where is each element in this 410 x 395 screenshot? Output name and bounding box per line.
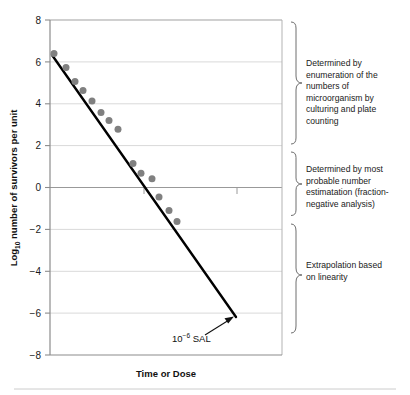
annotation-enumeration-line: enumeration of the [306,70,378,80]
y-axis-title-prefix: Log [8,249,19,267]
data-point [89,98,96,105]
sal-label: 10−6 SAL [172,332,211,344]
ytick-label-minus2: −2 [30,224,42,235]
sal-label-suffix: SAL [190,333,211,344]
ytick-label-8: 8 [35,15,41,26]
ytick-label-6: 6 [35,57,41,68]
annotation-enumeration-line: counting [306,116,339,126]
annotation-mpn-line: Determined by most [306,164,384,174]
ytick-label-4: 4 [35,98,41,109]
annotation-enumeration-line: microorganism by [306,93,375,103]
annotation-enumeration-line: culturing and plate [306,104,376,114]
data-point [149,175,156,182]
annotation-extrapolation-line: Extrapolation based [306,260,382,270]
ytick-label-2: 2 [35,140,41,151]
data-point [80,87,87,94]
survival-curve-figure: 8 6 4 2 0 −2 −4 −6 −8 Log10 number of su… [0,0,410,395]
x-axis-title: Time or Dose [136,368,196,379]
sal-label-prefix: 10 [172,333,183,344]
ytick-label-minus6: −6 [30,308,42,319]
data-point [174,218,181,225]
data-point [72,78,79,85]
annotation-extrapolation-line: on linearity [306,272,348,282]
annotation-mpn-line: probable number [306,176,371,186]
annotation-enumeration-line: Determined by [306,58,363,68]
annotation-mpn-line: negative analysis) [306,199,375,209]
ytick-label-minus4: −4 [30,266,42,277]
data-point [51,50,58,57]
ytick-label-0: 0 [35,182,41,193]
data-point [156,194,163,201]
data-point [138,170,145,177]
ytick-label-minus8: −8 [30,350,42,361]
chart-svg: 8 6 4 2 0 −2 −4 −6 −8 Log10 number of su… [0,0,410,395]
annotation-enumeration-line: numbers of [306,81,350,91]
data-point [63,64,70,71]
annotation-mpn-line: estimatation (fraction- [306,187,389,197]
data-point [166,207,173,214]
data-point [106,117,113,124]
y-axis-title-suffix: number of survivors per unit [8,109,19,242]
data-point [115,126,122,133]
data-point [98,109,105,116]
data-point [130,160,137,167]
